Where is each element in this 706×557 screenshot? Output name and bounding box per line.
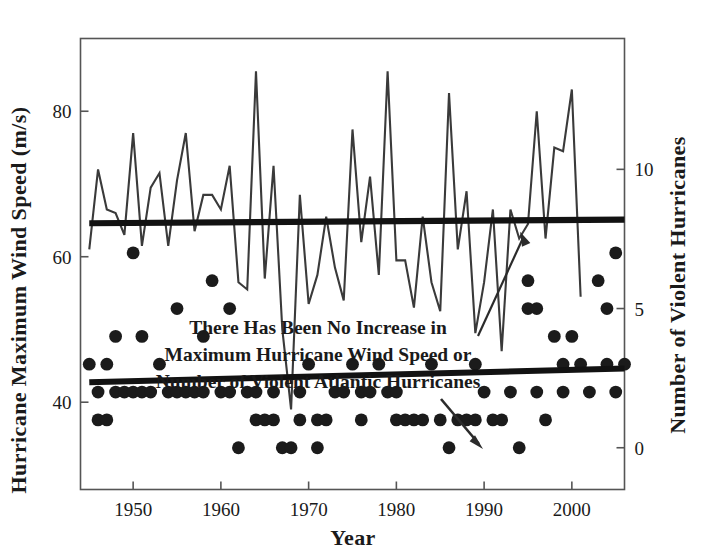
annotation-line-1: There Has Been No Increase in: [189, 317, 447, 338]
x-tick-label: 1980: [377, 499, 415, 520]
scatter-point: [232, 441, 245, 454]
scatter-point: [416, 414, 429, 427]
scatter-point: [565, 330, 578, 343]
scatter-point: [109, 330, 122, 343]
y-tick-label: 60: [53, 247, 72, 268]
scatter-point: [136, 330, 149, 343]
x-tick-label: 1960: [202, 499, 240, 520]
scatter-point: [522, 274, 535, 287]
scatter-point: [434, 414, 447, 427]
scatter-point: [592, 274, 605, 287]
no-increase-annotation: There Has Been No Increase in Maximum Hu…: [156, 317, 481, 392]
left-axis-title-group: Hurricane Maximum Wind Speed (m/s): [6, 107, 31, 494]
x-tick-label: 2000: [553, 499, 591, 520]
scatter-point: [100, 358, 113, 371]
scatter-point: [583, 386, 596, 399]
scatter-point: [92, 386, 105, 399]
scan-artifact-text: [0, 0, 706, 16]
scatter-point: [285, 441, 298, 454]
scatter-point: [513, 441, 526, 454]
right-axis-title-group: Number of Violent Hurricanes: [665, 136, 690, 433]
x-tick-label: 1950: [114, 499, 152, 520]
x-axis-title: Year: [330, 525, 376, 550]
x-tick-label: 1970: [290, 499, 328, 520]
scatter-point: [171, 302, 184, 315]
scatter-point: [495, 414, 508, 427]
y2-axis-title: Number of Violent Hurricanes: [665, 136, 690, 433]
x-axis-ticks: 195019601970198019902000: [114, 482, 591, 520]
annotation-line-2: Maximum Hurricane Wind Speed or: [165, 344, 472, 365]
scatter-point: [267, 414, 280, 427]
scatter-point: [548, 330, 561, 343]
y2-tick-label: 5: [635, 299, 645, 320]
y2-tick-label: 10: [635, 159, 654, 180]
scatter-point: [539, 414, 552, 427]
scatter-point: [293, 414, 306, 427]
annotation-line-3: Number of Violent Atlantic Hurricanes: [156, 371, 481, 392]
scatter-point: [100, 414, 113, 427]
y-tick-label: 80: [53, 101, 72, 122]
wind-speed-trend-line: [89, 220, 624, 224]
figure-root: Hurricane Maximum Wind Speed (m/s) Numbe…: [0, 0, 706, 557]
scatter-point: [609, 246, 622, 259]
y-axis-ticks: 406080: [53, 101, 89, 413]
scatter-point: [601, 302, 614, 315]
scatter-point: [443, 441, 456, 454]
hurricane-trend-chart: Hurricane Maximum Wind Speed (m/s) Numbe…: [0, 0, 706, 557]
y2-axis-ticks: 0510: [617, 159, 654, 458]
y-tick-label: 40: [53, 392, 72, 413]
scatter-point: [311, 441, 324, 454]
scatter-point: [355, 414, 368, 427]
scatter-point: [320, 414, 333, 427]
scatter-point: [530, 302, 543, 315]
scatter-point: [609, 386, 622, 399]
scatter-point: [557, 386, 570, 399]
scatter-point: [206, 274, 219, 287]
x-tick-label: 1990: [465, 499, 503, 520]
y2-tick-label: 0: [635, 438, 645, 459]
scatter-point: [127, 246, 140, 259]
scatter-point: [223, 302, 236, 315]
scatter-point: [469, 414, 482, 427]
y-axis-title: Hurricane Maximum Wind Speed (m/s): [6, 107, 31, 494]
scatter-point: [530, 386, 543, 399]
scatter-point: [504, 386, 517, 399]
scatter-point: [83, 358, 96, 371]
